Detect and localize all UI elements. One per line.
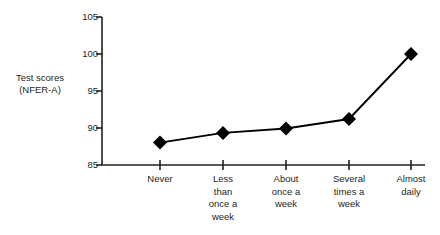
x-axis xyxy=(102,160,425,170)
chart-container: Test scores (NFER-A) 105 100 95 90 85 Ne… xyxy=(0,0,440,235)
data-point-less-than-once-a-week xyxy=(216,126,230,140)
plot-area xyxy=(0,0,440,235)
series-markers xyxy=(153,47,418,150)
y-axis xyxy=(96,17,102,165)
data-point-never xyxy=(153,136,167,150)
data-point-about-once-a-week xyxy=(279,122,293,136)
